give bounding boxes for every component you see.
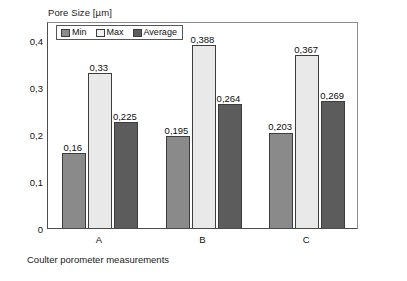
bar-value-label: 0,33 <box>90 62 109 73</box>
legend-swatch-average-icon <box>133 29 142 37</box>
bar-a-max[interactable] <box>88 73 112 228</box>
bar-a-min[interactable] <box>62 153 86 228</box>
bar-value-label: 0,367 <box>294 44 318 55</box>
bar-c-min[interactable] <box>269 133 293 229</box>
bar-value-label: 0,388 <box>191 34 215 45</box>
x-axis-tick-label-c: C <box>303 234 310 245</box>
y-axis: 00,10,20,30,4 <box>0 22 43 229</box>
legend-label-min: Min <box>72 28 87 37</box>
bar-c-max[interactable] <box>295 55 319 228</box>
legend-item-max[interactable]: Max <box>96 28 124 37</box>
legend-label-average: Average <box>144 28 177 37</box>
bar-b-min[interactable] <box>166 136 190 228</box>
bar-value-label: 0,225 <box>113 111 137 122</box>
bar-b-average[interactable] <box>218 104 242 228</box>
y-axis-tick-label: 0 <box>3 224 43 235</box>
x-axis-tick-label-a: A <box>96 234 102 245</box>
chart-axis-title: Pore Size [µm] <box>48 7 112 18</box>
bar-value-label: 0,195 <box>165 125 189 136</box>
y-axis-tick-label: 0,3 <box>3 82 43 93</box>
chart-caption: Coulter porometer measurements <box>27 254 169 265</box>
chart-screenshot: Pore Size [µm] 00,10,20,30,4 Min Max Ave… <box>0 0 407 281</box>
bar-value-label: 0,264 <box>217 93 241 104</box>
bar-c-average[interactable] <box>321 101 345 228</box>
legend-swatch-min-icon <box>61 29 70 37</box>
y-axis-tick-label: 0,2 <box>3 129 43 140</box>
bar-value-label: 0,16 <box>64 142 83 153</box>
legend-label-max: Max <box>107 28 124 37</box>
bar-value-label: 0,203 <box>268 121 292 132</box>
legend-item-min[interactable]: Min <box>61 28 87 37</box>
x-axis-tick-label-b: B <box>199 234 205 245</box>
y-axis-tick-label: 0,4 <box>3 35 43 46</box>
legend-swatch-max-icon <box>96 29 105 37</box>
legend-item-average[interactable]: Average <box>133 28 177 37</box>
chart-legend: Min Max Average <box>56 25 183 40</box>
y-axis-tick-label: 0,1 <box>3 176 43 187</box>
bar-b-max[interactable] <box>192 45 216 228</box>
bar-a-average[interactable] <box>114 122 138 228</box>
bar-value-label: 0,269 <box>320 90 344 101</box>
